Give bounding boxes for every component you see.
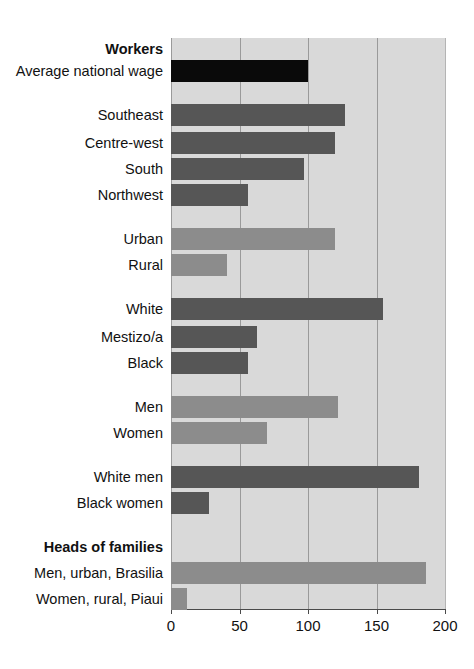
- table-row: Urban: [0, 228, 474, 250]
- table-row: Southeast: [0, 104, 474, 126]
- bar-label: Women, rural, Piaui: [0, 588, 163, 610]
- group-heading-row: Workers: [0, 38, 474, 60]
- table-row: Men: [0, 396, 474, 418]
- bar-label: Men, urban, Brasilia: [0, 562, 163, 584]
- bar-label: South: [0, 158, 163, 180]
- table-row: White men: [0, 466, 474, 488]
- bar: [171, 104, 345, 126]
- table-row: Rural: [0, 254, 474, 276]
- bar: [171, 588, 187, 610]
- bar-label: Centre-west: [0, 132, 163, 154]
- bar: [171, 466, 419, 488]
- table-row: Men, urban, Brasilia: [0, 562, 474, 584]
- bar: [171, 228, 335, 250]
- group-heading-row: Heads of families: [0, 536, 474, 558]
- bar: [171, 158, 304, 180]
- table-row: Women, rural, Piaui: [0, 588, 474, 610]
- bar: [171, 326, 257, 348]
- table-row: White: [0, 298, 474, 320]
- group-heading: Workers: [0, 38, 163, 60]
- bar-label: Mestizo/a: [0, 326, 163, 348]
- bar-label: Southeast: [0, 104, 163, 126]
- bar-label: Northwest: [0, 184, 163, 206]
- bar-label: Women: [0, 422, 163, 444]
- axis-tick-label-200: 200: [432, 617, 457, 635]
- bar: [171, 352, 248, 374]
- bar-label: White: [0, 298, 163, 320]
- bar: [171, 492, 209, 514]
- table-row: Centre-west: [0, 132, 474, 154]
- bar-label: Black women: [0, 492, 163, 514]
- table-row: Northwest: [0, 184, 474, 206]
- bar-label: Black: [0, 352, 163, 374]
- axis-tick-label-100: 100: [295, 617, 320, 635]
- bar: [171, 396, 338, 418]
- bar: [171, 562, 426, 584]
- bar-label: Urban: [0, 228, 163, 250]
- bar-label: Rural: [0, 254, 163, 276]
- table-row: Women: [0, 422, 474, 444]
- table-row: Mestizo/a: [0, 326, 474, 348]
- bar-label: White men: [0, 466, 163, 488]
- bar: [171, 184, 248, 206]
- horizontal-bar-chart: 050100150200 WorkersAverage national wag…: [0, 0, 474, 669]
- group-heading: Heads of families: [0, 536, 163, 558]
- bar-label: Men: [0, 396, 163, 418]
- axis-tick-label-0: 0: [167, 617, 175, 635]
- bar: [171, 298, 383, 320]
- axis-tick-label-150: 150: [364, 617, 389, 635]
- table-row: Black: [0, 352, 474, 374]
- table-row: Black women: [0, 492, 474, 514]
- bar: [171, 422, 267, 444]
- table-row: South: [0, 158, 474, 180]
- bar: [171, 132, 335, 154]
- table-row: Average national wage: [0, 60, 474, 82]
- axis-tick-label-50: 50: [231, 617, 248, 635]
- bar: [171, 60, 308, 82]
- bar-label: Average national wage: [0, 60, 163, 82]
- bar: [171, 254, 227, 276]
